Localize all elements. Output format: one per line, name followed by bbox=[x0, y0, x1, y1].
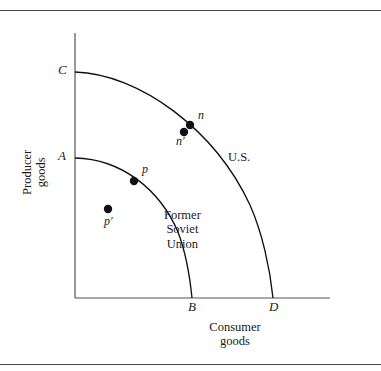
point-p-marker bbox=[130, 177, 138, 185]
curve-label-fsu-line2: Soviet bbox=[164, 222, 201, 236]
axis-label-C: C bbox=[58, 63, 67, 78]
curve-label-fsu-line1: Former bbox=[164, 208, 201, 222]
point-label-n: n bbox=[198, 109, 204, 123]
x-axis-title-line1: Consumer bbox=[185, 320, 285, 334]
us-frontier-curve bbox=[75, 72, 273, 298]
axis-label-A: A bbox=[58, 149, 66, 164]
figure-container: C A B D n n′ p p′ U.S. Former Soviet Uni… bbox=[0, 0, 381, 371]
x-axis-title-line2: goods bbox=[185, 334, 285, 348]
curve-label-fsu-line3: Union bbox=[164, 237, 201, 251]
axis-label-D: D bbox=[269, 300, 278, 315]
curve-label-former-soviet-union: Former Soviet Union bbox=[164, 208, 201, 251]
y-axis-title: Producer goods bbox=[20, 122, 49, 222]
point-p-prime-marker bbox=[104, 205, 112, 213]
ppf-chart-svg bbox=[0, 0, 381, 371]
point-label-n-prime: n′ bbox=[176, 135, 185, 149]
x-axis-title: Consumer goods bbox=[185, 320, 285, 349]
y-axis-title-line2: goods bbox=[34, 122, 48, 222]
y-axis-title-line1: Producer bbox=[20, 122, 34, 222]
point-n-marker bbox=[186, 121, 194, 129]
axis-label-B: B bbox=[188, 300, 196, 315]
point-label-p-prime: p′ bbox=[104, 215, 113, 229]
curve-label-us: U.S. bbox=[228, 150, 250, 164]
point-label-p: p bbox=[142, 163, 148, 177]
